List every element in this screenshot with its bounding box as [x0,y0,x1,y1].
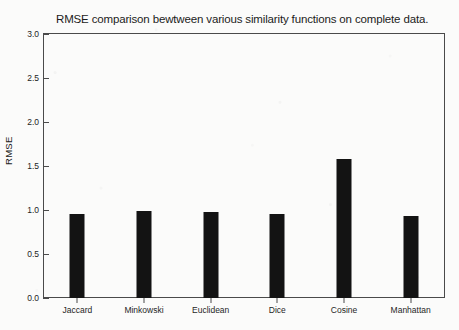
y-axis-tick-label: 0.5 [27,249,39,259]
y-axis-tick-label: 0.0 [27,293,39,303]
y-axis-label: RMSE [3,136,14,165]
x-axis-tick-mark [210,298,211,303]
x-axis-tick-label: Euclidean [192,305,229,315]
y-axis-tick-label: 1.0 [27,205,39,215]
plot-area [44,34,444,298]
y-axis-tick: 0.0 [43,298,49,299]
bar-manhattan [403,216,418,298]
x-axis-tick-label: Manhattan [391,305,431,315]
x-axis-tick-mark [410,298,411,303]
bar-euclidean [203,212,218,298]
y-axis-tick-mark [43,298,49,299]
x-axis-tick-label: Jaccard [62,305,92,315]
bar-cosine [337,159,352,298]
bar-dice [270,214,285,298]
bar-minkowski [137,211,152,298]
chart-screenshot: RMSE comparison bewtween various similar… [0,0,459,330]
y-axis-tick-label: 2.0 [27,117,39,127]
bar-jaccard [70,214,85,298]
x-axis-tick-mark [344,298,345,303]
x-axis-tick-mark [77,298,78,303]
x-axis-tick-label: Cosine [331,305,357,315]
x-axis-tick-label: Minkowski [124,305,163,315]
y-axis-tick-label: 1.5 [27,161,39,171]
x-axis-tick-mark [277,298,278,303]
chart-title: RMSE comparison bewtween various similar… [56,13,448,25]
x-axis-tick-mark [144,298,145,303]
x-axis-tick-label: Dice [269,305,286,315]
y-axis-tick-label: 3.0 [27,29,39,39]
y-axis-tick-label: 2.5 [27,73,39,83]
